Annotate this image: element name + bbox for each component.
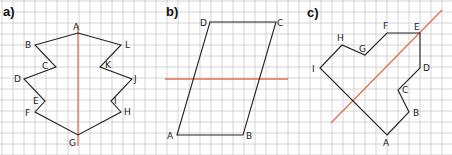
vertex-label-I: I <box>312 64 315 74</box>
panel-c: ABCDEFGHIc) <box>307 5 442 148</box>
panel-a: ALKJIHGFEDCBa) <box>3 4 137 148</box>
vertex-label-D: D <box>200 18 207 28</box>
panel-label: c) <box>307 5 319 20</box>
panel-label: b) <box>166 4 178 19</box>
vertex-label-C: C <box>277 18 283 28</box>
vertex-label-H: H <box>124 107 131 117</box>
vertex-label-B: B <box>413 108 419 118</box>
vertex-label-E: E <box>414 22 420 32</box>
panel-label: a) <box>3 4 15 19</box>
panel-b: ABCDb) <box>165 4 288 141</box>
vertex-label-A: A <box>73 22 80 32</box>
vertex-label-G: G <box>69 138 76 148</box>
vertex-label-F: F <box>383 21 388 31</box>
vertex-label-J: J <box>133 74 137 84</box>
vertex-label-A: A <box>383 138 390 148</box>
vertex-label-C: C <box>42 61 48 71</box>
vertex-label-E: E <box>33 96 39 106</box>
vertex-label-C: C <box>402 85 408 95</box>
vertex-label-G: G <box>359 44 366 54</box>
vertex-label-L: L <box>125 40 130 50</box>
vertex-label-K: K <box>105 60 112 70</box>
vertex-label-F: F <box>25 108 30 118</box>
vertex-label-A: A <box>167 131 174 141</box>
symmetry-exercise-figure: ALKJIHGFEDCBa)ABCDb)ABCDEFGHIc) <box>0 0 452 155</box>
vertex-label-H: H <box>337 33 344 43</box>
vertex-label-I: I <box>114 96 117 106</box>
vertex-label-D: D <box>423 63 430 73</box>
vertex-label-D: D <box>14 74 21 84</box>
vertex-label-B: B <box>246 131 252 141</box>
vertex-label-B: B <box>25 40 31 50</box>
